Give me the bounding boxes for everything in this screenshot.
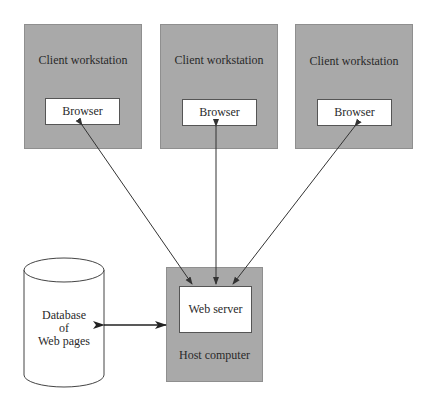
database-label-line3: Web pages <box>24 334 104 349</box>
diagram-canvas: Client workstation Browser Client workst… <box>0 0 432 409</box>
